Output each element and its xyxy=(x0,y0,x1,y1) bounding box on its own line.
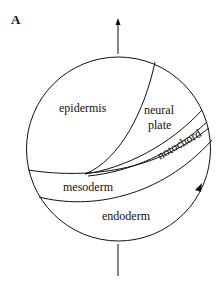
arrow-up-icon xyxy=(116,18,121,25)
label-neural-plate-2: plate xyxy=(148,118,171,132)
label-neural-plate-1: neural xyxy=(144,103,175,117)
label-mesoderm: mesoderm xyxy=(63,180,114,194)
label-epidermis: epidermis xyxy=(59,101,107,115)
neural-plate-boundary xyxy=(85,62,155,174)
triangle-marker-icon xyxy=(195,183,202,192)
fate-map-diagram: epidermis neural plate notochord mesoder… xyxy=(0,0,222,290)
label-endoderm: endoderm xyxy=(102,209,151,223)
